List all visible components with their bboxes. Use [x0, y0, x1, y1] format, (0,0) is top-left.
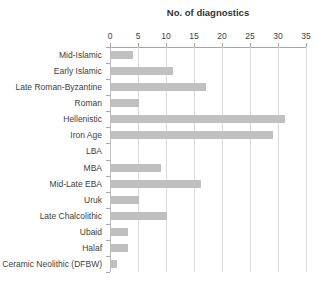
category-label: Late Chalcolithic: [0, 208, 102, 224]
bar: [111, 244, 128, 252]
category-label: Late Roman-Byzantine: [0, 79, 102, 95]
category-label: Iron Age: [0, 127, 102, 143]
category-label: MBA: [0, 160, 102, 176]
category-label: Roman: [0, 95, 102, 111]
gridline: [250, 47, 251, 272]
bar: [111, 180, 201, 188]
x-tick-label: 5: [136, 31, 141, 41]
x-tick-label: 30: [273, 31, 282, 41]
category-label: Mid-Islamic: [0, 47, 102, 63]
y-axis-category-labels: Mid-IslamicEarly IslamicLate Roman-Byzan…: [0, 47, 104, 272]
bar: [111, 164, 161, 172]
bar: [111, 212, 167, 220]
category-label: Uruk: [0, 192, 102, 208]
bar: [111, 83, 206, 91]
x-tick-label: 20: [217, 31, 226, 41]
category-label: Mid-Late EBA: [0, 176, 102, 192]
category-label: LBA: [0, 143, 102, 159]
bar-chart: No. of diagnostics 05101520253035 Mid-Is…: [0, 0, 318, 281]
bar: [111, 228, 128, 236]
gridline: [306, 47, 307, 272]
gridline: [278, 47, 279, 272]
bar: [111, 196, 139, 204]
bar: [111, 260, 117, 268]
bar: [111, 115, 285, 123]
x-tick-label: 35: [301, 31, 310, 41]
category-label: Hellenistic: [0, 111, 102, 127]
gridline: [138, 47, 139, 272]
chart-title: No. of diagnostics: [110, 7, 306, 18]
category-label: Ubaid: [0, 224, 102, 240]
x-tick-label: 0: [108, 31, 113, 41]
gridline: [166, 47, 167, 272]
category-label: Ceramic Neolithic (DFBW): [0, 256, 102, 272]
category-label: Early Islamic: [0, 63, 102, 79]
plot-area: [110, 47, 306, 272]
bar: [111, 131, 273, 139]
gridline: [194, 47, 195, 272]
x-tick-label: 15: [189, 31, 198, 41]
bar: [111, 67, 173, 75]
category-label: Halaf: [0, 240, 102, 256]
x-axis-tick-labels: 05101520253035: [110, 31, 306, 42]
y-tick: [106, 272, 110, 273]
bar: [111, 51, 133, 59]
x-tick-label: 25: [245, 31, 254, 41]
zero-axis-line: [110, 47, 111, 272]
gridline: [222, 47, 223, 272]
x-tick-label: 10: [161, 31, 170, 41]
bar: [111, 99, 139, 107]
